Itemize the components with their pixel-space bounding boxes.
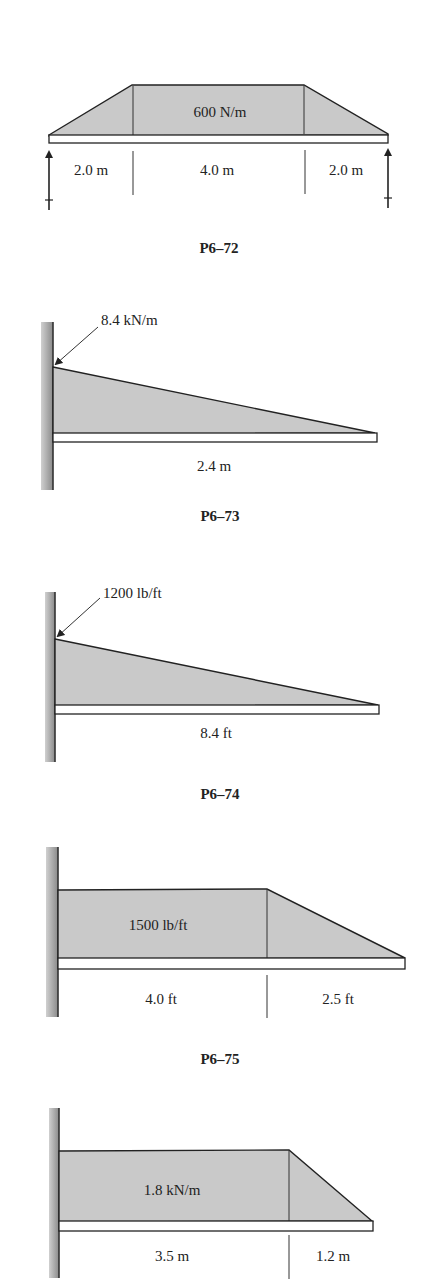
- figure-caption: P6–72: [199, 240, 238, 256]
- figure-p6-72: 600 N/m 2.0 m 4.0 m 2.0 m P6–72: [45, 85, 392, 256]
- beam: [58, 958, 405, 969]
- beam: [59, 1221, 373, 1231]
- dimension-label: 2.0 m: [74, 162, 109, 178]
- uniform-and-ramp-load: [58, 889, 405, 959]
- load-label: 1500 lb/ft: [129, 917, 189, 933]
- figure-caption: P6–74: [200, 786, 240, 802]
- leader-arrow-icon: [56, 327, 98, 364]
- figure-p6-75: 1500 lb/ft 4.0 ft 2.5 ft P6–75: [46, 847, 405, 1067]
- beam: [53, 433, 377, 442]
- triangular-load: [53, 367, 375, 434]
- fixed-wall: [41, 322, 53, 490]
- dimension-label: 2.5 ft: [322, 991, 354, 1007]
- figure-p6-74: 1200 lb/ft 8.4 ft P6–74: [45, 585, 379, 802]
- dimension-label: 4.0 m: [200, 162, 235, 178]
- figure-p6-73: 8.4 kN/m 2.4 m P6–73: [41, 312, 377, 524]
- fixed-wall: [46, 847, 58, 1017]
- dimension-label: 4.0 ft: [145, 991, 177, 1007]
- figure-p6-76: 1.8 kN/m 3.5 m 1.2 m: [49, 1108, 373, 1279]
- beam: [49, 135, 388, 143]
- leader-arrow-icon: [58, 598, 100, 636]
- load-label: 8.4 kN/m: [101, 312, 158, 328]
- beam: [55, 705, 379, 714]
- load-label: 1.8 kN/m: [144, 1182, 201, 1198]
- uniform-and-ramp-load: [59, 1150, 372, 1222]
- load-label: 600 N/m: [194, 104, 247, 120]
- figure-caption: P6–75: [200, 1051, 239, 1067]
- load-label: 1200 lb/ft: [103, 585, 163, 601]
- dimension-label: 3.5 m: [155, 1248, 190, 1264]
- figure-caption: P6–73: [200, 508, 239, 524]
- triangular-load: [55, 639, 378, 706]
- dimension-label: 1.2 m: [316, 1248, 351, 1264]
- fixed-wall: [49, 1108, 59, 1278]
- fixed-wall: [45, 592, 55, 762]
- dimension-label: 2.4 m: [197, 458, 232, 474]
- dimension-label: 8.4 ft: [200, 725, 232, 741]
- dimension-label: 2.0 m: [329, 162, 364, 178]
